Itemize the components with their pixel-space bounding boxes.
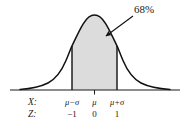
leader-arrow-icon (106, 16, 133, 36)
tick-label-x-mu: μ (91, 97, 96, 107)
area-percent-label: 68% (134, 3, 154, 15)
tick-label-z-minus-one: −1 (67, 109, 77, 119)
figure-canvas: 68% X: Z: μ−σ μ μ+σ −1 0 1 (0, 0, 189, 124)
tick-label-x-mu-minus-sigma: μ−σ (64, 97, 80, 107)
axis-row-label-x: X: (27, 97, 37, 107)
normal-curve-figure: 68% X: Z: μ−σ μ μ+σ −1 0 1 (0, 0, 189, 124)
shaded-area-68-percent (72, 15, 117, 90)
tick-label-x-mu-plus-sigma: μ+σ (109, 97, 125, 107)
tick-label-z-one: 1 (115, 109, 120, 119)
axis-row-label-z: Z: (28, 109, 36, 119)
tick-label-z-zero: 0 (92, 109, 97, 119)
